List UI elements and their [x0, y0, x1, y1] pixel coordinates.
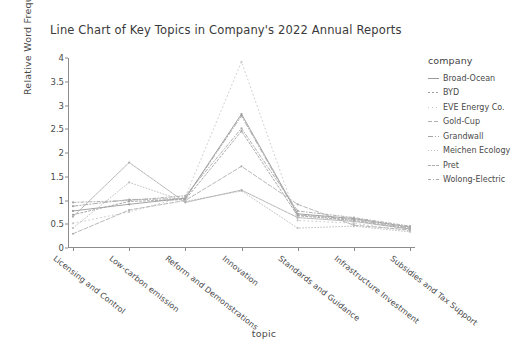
- legend-item[interactable]: EVE Energy Co.: [428, 100, 526, 115]
- legend-item-label: Wolong-Electric: [443, 175, 505, 184]
- x-axis-label: topic: [0, 328, 528, 339]
- y-tick-label: 3.5: [50, 77, 64, 87]
- data-point: [353, 225, 355, 227]
- legend-item-label: Gold-Cup: [443, 117, 480, 126]
- legend-line-icon: [428, 117, 439, 126]
- x-tick-label: Reform and Demonstrations: [164, 254, 260, 332]
- data-point: [128, 199, 130, 201]
- data-point: [72, 216, 74, 218]
- x-tick-mark: [185, 248, 186, 251]
- y-tick-label: 1.5: [50, 172, 64, 182]
- series-line: [73, 62, 410, 231]
- data-point: [240, 113, 242, 115]
- series-line: [73, 128, 410, 226]
- series-line: [73, 116, 410, 228]
- data-point: [72, 233, 74, 235]
- legend-item-label: Pret: [443, 161, 459, 170]
- data-point: [240, 115, 242, 117]
- series-line: [73, 131, 410, 229]
- y-tick-label: 0.5: [50, 219, 64, 229]
- chart-figure: Line Chart of Key Topics in Company's 20…: [0, 0, 528, 352]
- data-point: [72, 210, 74, 212]
- legend-line-icon: [428, 74, 439, 83]
- data-point: [240, 165, 242, 167]
- chart-title: Line Chart of Key Topics in Company's 20…: [50, 23, 402, 37]
- data-point: [184, 195, 186, 197]
- data-point: [240, 189, 242, 191]
- legend-item-label: Meichen Ecology: [443, 146, 510, 155]
- x-tick-label: Innovation: [220, 254, 260, 288]
- legend-title: company: [428, 55, 526, 66]
- legend-line-icon: [428, 161, 439, 170]
- data-point: [128, 209, 130, 211]
- data-point: [297, 227, 299, 229]
- data-point: [409, 228, 411, 230]
- data-point: [184, 198, 186, 200]
- x-tick-mark: [298, 248, 299, 251]
- legend-item-label: Grandwall: [443, 132, 483, 141]
- legend-item-label: Broad-Ocean: [443, 74, 495, 83]
- legend-line-icon: [428, 132, 439, 141]
- legend: company Broad-OceanBYDEVE Energy Co.Gold…: [428, 55, 526, 187]
- legend-item[interactable]: Gold-Cup: [428, 115, 526, 130]
- data-point: [72, 205, 74, 207]
- legend-item[interactable]: Wolong-Electric: [428, 173, 526, 188]
- legend-items: Broad-OceanBYDEVE Energy Co.Gold-CupGran…: [428, 71, 526, 187]
- y-tick-label: 2.5: [50, 124, 64, 134]
- data-point: [353, 220, 355, 222]
- legend-item-label: BYD: [443, 88, 459, 97]
- data-point: [240, 130, 242, 132]
- y-tick-label: 2: [59, 148, 64, 158]
- x-tick-mark: [73, 248, 74, 251]
- x-tick-mark: [129, 248, 130, 251]
- data-point: [409, 231, 411, 233]
- data-point: [72, 227, 74, 229]
- legend-item[interactable]: Pret: [428, 158, 526, 173]
- data-point: [409, 225, 411, 227]
- x-tick-label: Subsidies and Tax Support: [388, 254, 479, 328]
- legend-line-icon: [428, 88, 439, 97]
- data-point: [128, 203, 130, 205]
- data-point: [353, 218, 355, 220]
- legend-item[interactable]: Grandwall: [428, 129, 526, 144]
- series-lines: [68, 58, 415, 248]
- y-tick-label: 1: [59, 196, 64, 206]
- legend-item[interactable]: BYD: [428, 86, 526, 101]
- y-tick-label: 3: [59, 101, 64, 111]
- x-tick-mark: [410, 248, 411, 251]
- data-point: [297, 217, 299, 219]
- legend-item[interactable]: Meichen Ecology: [428, 144, 526, 159]
- data-point: [184, 201, 186, 203]
- data-point: [297, 210, 299, 212]
- x-tick-mark: [242, 248, 243, 251]
- y-tick-label: 4: [59, 53, 64, 63]
- legend-item-label: EVE Energy Co.: [443, 103, 505, 112]
- data-point: [128, 181, 130, 183]
- data-point: [297, 219, 299, 221]
- y-axis-label: Relative Word Frequency: [22, 0, 33, 95]
- data-point: [353, 222, 355, 224]
- x-tick-mark: [354, 248, 355, 251]
- legend-line-icon: [428, 103, 439, 112]
- data-point: [128, 161, 130, 163]
- y-tick-label: 0: [59, 243, 64, 253]
- legend-line-icon: [428, 146, 439, 155]
- data-point: [72, 222, 74, 224]
- data-point: [240, 127, 242, 129]
- data-point: [297, 203, 299, 205]
- data-point: [128, 211, 130, 213]
- legend-item[interactable]: Broad-Ocean: [428, 71, 526, 86]
- data-point: [297, 214, 299, 216]
- data-point: [72, 201, 74, 203]
- legend-line-icon: [428, 175, 439, 184]
- data-point: [240, 61, 242, 63]
- plot-area: 00.511.522.533.54 Licensing and ControlL…: [68, 58, 415, 248]
- data-point: [353, 217, 355, 219]
